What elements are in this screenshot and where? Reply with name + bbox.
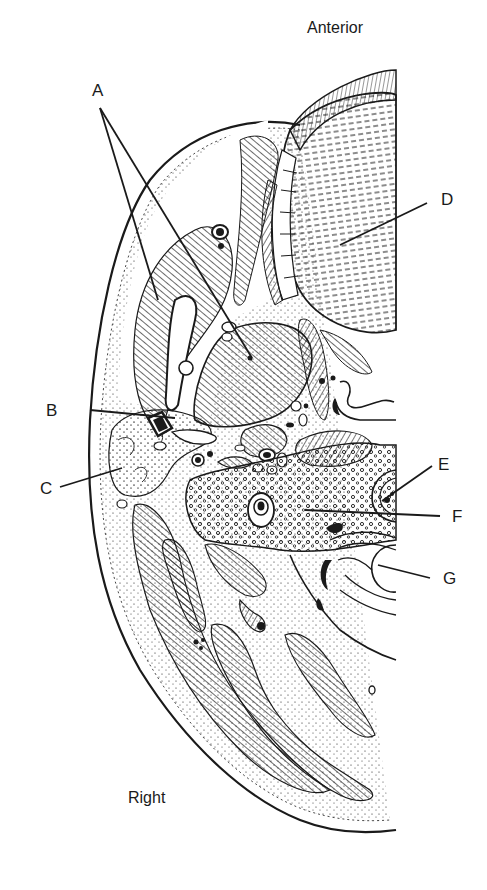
label-D: D [441, 191, 453, 208]
orientation-anterior-label: Anterior [307, 20, 363, 36]
anatomical-figure: Anterior Right A B C D E F G [0, 0, 487, 890]
label-A: A [92, 82, 103, 99]
label-B: B [46, 402, 57, 419]
label-G: G [443, 570, 456, 587]
label-C: C [40, 480, 52, 497]
label-E: E [438, 456, 449, 473]
label-F: F [452, 508, 462, 525]
cross-section-drawing [0, 0, 487, 890]
orientation-right-label: Right [128, 790, 165, 806]
